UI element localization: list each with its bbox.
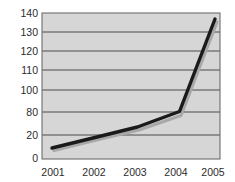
x-tick-label: 2001 <box>41 166 65 178</box>
y-tick-label: 80 <box>26 106 38 118</box>
y-tick-label: 0 <box>32 152 38 164</box>
y-tick-label: 140 <box>20 7 38 19</box>
x-tick-label: 2005 <box>201 166 225 178</box>
y-tick-label: 20 <box>26 129 38 141</box>
y-tick-label: 110 <box>21 64 38 76</box>
chart-canvas: 140 130 120 110 100 80 20 0 2001 2002 20… <box>0 0 235 182</box>
x-tick-label: 2002 <box>82 166 106 178</box>
y-tick-label: 130 <box>20 26 38 38</box>
line-chart-figure: 140 130 120 110 100 80 20 0 2001 2002 20… <box>0 0 235 182</box>
y-tick-label: 100 <box>20 84 38 96</box>
x-tick-label: 2004 <box>164 166 188 178</box>
y-tick-label: 120 <box>20 45 38 57</box>
x-tick-label: 2003 <box>123 166 147 178</box>
